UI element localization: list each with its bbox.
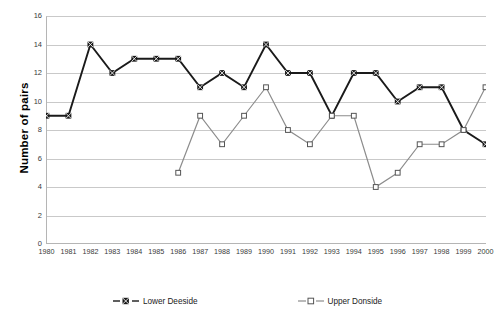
series-line [47,45,486,145]
y-tick-label: 10 [20,98,42,106]
data-point-marker [308,142,313,147]
data-point-marker [373,185,378,190]
legend-marker-icon [113,296,139,306]
series-layer [46,42,486,190]
x-tick-label: 2000 [472,247,495,256]
data-point-marker [286,128,291,133]
series-upper-donside [176,85,486,190]
line-chart: Number of pairs 0246810121416 1980198119… [0,0,495,320]
y-tick-label: 8 [20,126,42,134]
data-point-marker [242,113,247,118]
legend-entry-upper-donside[interactable]: Upper Donside [298,296,383,306]
y-tick-label: 4 [20,183,42,191]
y-tick-label: 14 [20,41,42,49]
data-point-marker [351,113,356,118]
y-tick-label: 6 [20,155,42,163]
data-point-marker [329,113,334,118]
y-axis-tick-labels: 0246810121416 [14,16,42,244]
legend-marker-icon [298,296,324,306]
data-point-marker [439,142,444,147]
gridlines [46,17,486,245]
data-point-marker [220,142,225,147]
legend-entry-lower-deeside[interactable]: Lower Deeside [113,296,198,306]
plot-area [46,16,486,244]
data-point-marker [483,85,486,90]
data-point-marker [198,113,203,118]
series-lower-deeside [46,42,486,148]
y-tick-label: 12 [20,69,42,77]
x-axis-tick-labels: 1980198119821983198419851986198719881989… [46,247,486,261]
data-point-marker [264,85,269,90]
legend-label-upper-donside: Upper Donside [328,297,383,306]
y-tick-label: 2 [20,212,42,220]
data-point-marker [461,128,466,133]
data-point-marker [176,170,181,175]
chart-legend: Lower Deeside Upper Donside [0,291,495,311]
legend-label-lower-deeside: Lower Deeside [143,297,198,306]
plot-svg [46,16,486,244]
y-tick-label: 16 [20,12,42,20]
data-point-marker [417,142,422,147]
data-point-marker [395,170,400,175]
